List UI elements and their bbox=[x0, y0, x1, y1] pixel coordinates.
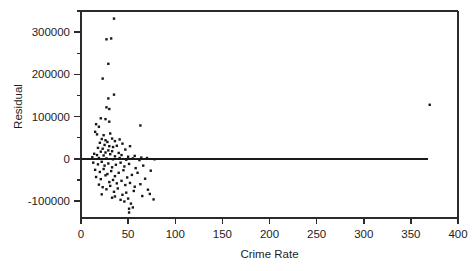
y-axis-title: Residual bbox=[12, 84, 24, 129]
data-point bbox=[104, 174, 106, 176]
data-point bbox=[108, 108, 110, 110]
data-point bbox=[104, 151, 106, 153]
data-point bbox=[95, 123, 97, 125]
data-point bbox=[127, 197, 129, 199]
data-point bbox=[111, 137, 113, 139]
x-tick-label: 100 bbox=[166, 228, 185, 240]
data-point bbox=[118, 138, 120, 140]
data-point bbox=[92, 161, 94, 163]
data-point bbox=[124, 184, 126, 186]
data-point bbox=[104, 118, 106, 120]
data-point bbox=[98, 183, 100, 185]
data-point bbox=[106, 141, 108, 143]
data-point-group bbox=[91, 17, 431, 213]
data-point bbox=[129, 182, 131, 184]
data-point bbox=[127, 156, 129, 158]
data-point bbox=[111, 166, 113, 168]
x-axis-title: Crime Rate bbox=[240, 248, 298, 260]
x-tick-label: 200 bbox=[260, 228, 279, 240]
data-point bbox=[105, 188, 107, 190]
data-point bbox=[94, 169, 96, 171]
data-point bbox=[118, 152, 120, 154]
data-point bbox=[93, 153, 95, 155]
data-point bbox=[139, 124, 141, 126]
data-point bbox=[132, 206, 134, 208]
y-tick-label: 200000 bbox=[32, 68, 70, 80]
y-tick-label: 0 bbox=[64, 153, 70, 165]
x-tick-label: 150 bbox=[213, 228, 232, 240]
data-point bbox=[98, 126, 100, 128]
x-tick-label: 300 bbox=[354, 228, 373, 240]
data-point bbox=[101, 148, 103, 150]
data-point bbox=[123, 200, 125, 202]
data-point bbox=[101, 77, 103, 79]
data-point bbox=[118, 157, 120, 159]
y-tick-label: 300000 bbox=[32, 26, 70, 38]
data-point bbox=[116, 182, 118, 184]
data-point bbox=[141, 195, 143, 197]
data-point bbox=[114, 155, 116, 157]
data-point bbox=[113, 191, 115, 193]
data-point bbox=[101, 186, 103, 188]
data-point bbox=[118, 172, 120, 174]
data-point bbox=[102, 134, 104, 136]
data-point bbox=[152, 198, 154, 200]
data-point bbox=[429, 104, 431, 106]
data-point bbox=[102, 154, 104, 156]
data-point bbox=[123, 165, 125, 167]
data-point bbox=[149, 193, 151, 195]
data-point bbox=[128, 208, 130, 210]
x-tick-label: 350 bbox=[401, 228, 420, 240]
data-point bbox=[98, 157, 100, 159]
y-tick-label: 100000 bbox=[32, 111, 70, 123]
data-point bbox=[130, 202, 132, 204]
data-point bbox=[138, 159, 140, 161]
data-point bbox=[128, 163, 130, 165]
data-point bbox=[134, 167, 136, 169]
data-point bbox=[114, 140, 116, 142]
data-point bbox=[112, 158, 114, 160]
data-point bbox=[136, 172, 138, 174]
data-point bbox=[117, 187, 119, 189]
data-point bbox=[113, 17, 115, 19]
data-point bbox=[126, 176, 128, 178]
data-point bbox=[125, 159, 127, 161]
data-point bbox=[119, 199, 121, 201]
data-point bbox=[124, 148, 126, 150]
data-point bbox=[101, 193, 103, 195]
data-point bbox=[94, 131, 96, 133]
data-point bbox=[120, 154, 122, 156]
data-point bbox=[125, 191, 127, 193]
data-point bbox=[144, 178, 146, 180]
data-point bbox=[131, 174, 133, 176]
data-point bbox=[150, 169, 152, 171]
data-point bbox=[105, 157, 107, 159]
data-point bbox=[107, 63, 109, 65]
y-tick-label: -100000 bbox=[28, 195, 70, 207]
data-point bbox=[110, 37, 112, 39]
data-point bbox=[107, 149, 109, 151]
data-point bbox=[105, 106, 107, 108]
data-point bbox=[91, 156, 93, 158]
x-tick-label: 250 bbox=[307, 228, 326, 240]
data-point bbox=[133, 190, 135, 192]
data-point bbox=[134, 186, 136, 188]
data-point bbox=[109, 185, 111, 187]
data-point bbox=[101, 138, 103, 140]
data-point bbox=[96, 154, 98, 156]
plot-canvas: -100000010000020000030000005010015020025… bbox=[0, 0, 476, 271]
data-point bbox=[108, 120, 110, 122]
data-point bbox=[120, 180, 122, 182]
data-point bbox=[132, 157, 134, 159]
data-point bbox=[142, 164, 144, 166]
data-point bbox=[107, 97, 109, 99]
data-point bbox=[109, 132, 111, 134]
x-tick-label: 50 bbox=[122, 228, 135, 240]
data-point bbox=[105, 38, 107, 40]
data-point bbox=[99, 142, 101, 144]
data-point bbox=[153, 158, 155, 160]
data-point bbox=[100, 117, 102, 119]
data-point bbox=[122, 169, 124, 171]
data-point bbox=[114, 175, 116, 177]
data-point bbox=[109, 153, 111, 155]
